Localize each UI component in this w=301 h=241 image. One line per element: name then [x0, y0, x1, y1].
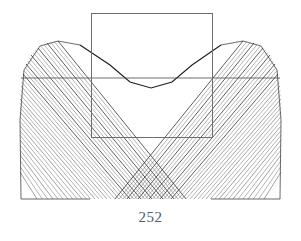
right-pencil-line [175, 78, 279, 199]
right-pencil-line [248, 155, 281, 199]
left-pencil-line [26, 64, 141, 199]
left-pencil-line [20, 155, 53, 199]
left-pencil-line [44, 45, 170, 199]
right-pencil-line [149, 55, 270, 199]
line-envelope-figure [0, 0, 301, 241]
left-pencil-line [24, 71, 134, 199]
right-pencil-line [115, 41, 243, 199]
right-pencil-line [259, 166, 281, 199]
right-pencil-line [119, 42, 247, 199]
right-pencil-line [228, 135, 281, 199]
right-pencil-line [123, 42, 250, 199]
right-lobe-outline [221, 41, 281, 199]
left-pencil-line [58, 41, 186, 199]
right-pencil-line [210, 117, 281, 199]
right-pencil-line [194, 99, 281, 199]
right-pencil-line [156, 61, 273, 199]
left-pencil-line [20, 166, 42, 199]
left-pencil-line [20, 135, 73, 199]
left-pencil-line [20, 172, 37, 199]
right-pencil-line [253, 161, 281, 199]
left-pencil-line [51, 42, 178, 199]
right-pencil-line [264, 172, 281, 199]
right-pencil-line [134, 46, 260, 199]
right-pencil-line [160, 64, 275, 199]
left-pencil-line [41, 46, 167, 199]
left-pencil-line [20, 117, 91, 199]
left-pencil-line [38, 48, 163, 199]
figure-page: 252 [0, 0, 301, 241]
left-pencil-line [28, 61, 145, 199]
page-number: 252 [0, 209, 301, 226]
right-pencil-line [167, 71, 277, 199]
left-pencil-line [54, 42, 182, 199]
left-pencil-line [22, 78, 126, 199]
left-pencil-line [20, 99, 107, 199]
left-lobe-outline [20, 41, 80, 199]
rectangle-overlay [92, 14, 213, 138]
left-pencil-line [20, 161, 48, 199]
right-pencil-line [138, 48, 263, 199]
envelope-upper-curve [80, 45, 221, 88]
right-pencil-line [131, 45, 257, 199]
figure-geometry [20, 14, 281, 200]
